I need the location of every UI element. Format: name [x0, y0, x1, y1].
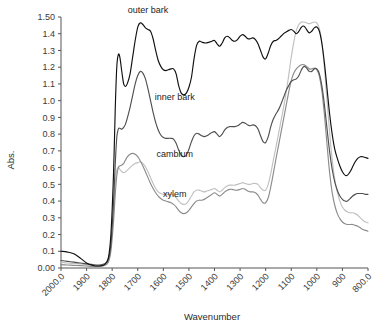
- series-label-inner-bark: inner bark: [155, 92, 196, 102]
- spectroscopy-chart: 0.000.10.20.30.40.50.60.70.80.91.01.11.2…: [0, 0, 384, 329]
- y-tick-label: 0.6: [42, 163, 55, 173]
- y-tick-label: 0.8: [42, 129, 55, 139]
- y-tick-label: 1.0: [42, 96, 55, 106]
- y-tick-label: 0.3: [42, 213, 55, 223]
- y-tick-label: 1.4: [42, 29, 55, 39]
- y-tick-label: 1.50: [37, 12, 55, 22]
- series-label-outer-bark: outer bark: [128, 5, 169, 15]
- chart-canvas: 0.000.10.20.30.40.50.60.70.80.91.01.11.2…: [0, 0, 384, 329]
- series-label-cambium: cambium: [157, 149, 194, 159]
- x-axis-title: Wavenumber: [184, 311, 240, 322]
- y-tick-label: 1.1: [42, 79, 55, 89]
- y-tick-label: 1.3: [42, 46, 55, 56]
- y-tick-label: 0.00: [37, 263, 55, 273]
- y-tick-label: 0.2: [42, 230, 55, 240]
- y-tick-label: 0.5: [42, 180, 55, 190]
- y-tick-label: 0.9: [42, 113, 55, 123]
- y-axis-title: Abs.: [5, 150, 16, 169]
- y-tick-label: 1.2: [42, 62, 55, 72]
- y-tick-label: 0.7: [42, 146, 55, 156]
- series-label-xylem: xylem: [163, 189, 187, 199]
- y-tick-label: 0.4: [42, 196, 55, 206]
- y-tick-label: 0.1: [42, 246, 55, 256]
